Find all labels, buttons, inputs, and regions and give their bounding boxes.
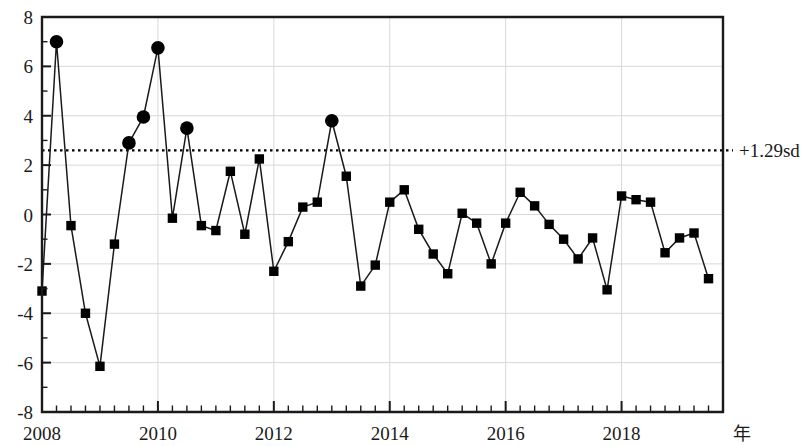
data-point-square bbox=[631, 195, 640, 204]
data-point-square bbox=[602, 285, 611, 294]
data-point-square bbox=[240, 230, 249, 239]
y-axis-tick-label: -4 bbox=[17, 303, 33, 324]
y-axis-tick-label: -8 bbox=[17, 402, 33, 423]
data-point-circle bbox=[325, 114, 339, 128]
data-point-circle bbox=[50, 35, 64, 49]
y-axis-tick-label: 2 bbox=[24, 155, 34, 176]
data-point-square bbox=[689, 228, 698, 237]
data-point-square bbox=[66, 221, 75, 230]
series-layer bbox=[37, 35, 713, 371]
y-axis-tick-label: 6 bbox=[24, 56, 34, 77]
data-point-square bbox=[588, 233, 597, 242]
data-point-square bbox=[95, 362, 104, 371]
y-axis-tick-label: -2 bbox=[17, 254, 33, 275]
x-axis-tick-label: 2016 bbox=[487, 423, 525, 444]
threshold-line-group: +1.29sd bbox=[42, 140, 800, 161]
x-axis-tick-label: 2010 bbox=[139, 423, 177, 444]
data-point-square bbox=[617, 191, 626, 200]
data-point-square bbox=[385, 197, 394, 206]
data-point-square bbox=[371, 260, 380, 269]
y-axis-tick-label: 8 bbox=[24, 7, 34, 28]
data-point-square bbox=[110, 239, 119, 248]
data-point-square bbox=[472, 218, 481, 227]
line-chart: +1.29sd 86420-2-4-6-82008201020122014201… bbox=[0, 0, 802, 446]
data-point-square bbox=[559, 234, 568, 243]
data-point-square bbox=[660, 248, 669, 257]
data-point-square bbox=[356, 281, 365, 290]
x-axis-tick-label: 2014 bbox=[371, 423, 410, 444]
data-point-square bbox=[313, 197, 322, 206]
x-axis-tick-label: 2012 bbox=[255, 423, 293, 444]
data-point-square bbox=[81, 309, 90, 318]
data-point-square bbox=[675, 233, 684, 242]
data-point-square bbox=[646, 197, 655, 206]
data-point-square bbox=[255, 154, 264, 163]
data-point-square bbox=[400, 185, 409, 194]
series-line bbox=[42, 42, 709, 367]
x-axis-tick-label: 2018 bbox=[603, 423, 641, 444]
data-point-square bbox=[429, 249, 438, 258]
data-point-square bbox=[342, 172, 351, 181]
data-point-square bbox=[226, 167, 235, 176]
x-axis-tick-label: 2008 bbox=[23, 423, 61, 444]
gridlines bbox=[42, 17, 723, 412]
x-axis-unit: 年 bbox=[733, 423, 751, 444]
data-point-square bbox=[486, 259, 495, 268]
chart-container: +1.29sd 86420-2-4-6-82008201020122014201… bbox=[0, 0, 802, 446]
data-point-square bbox=[501, 218, 510, 227]
data-point-square bbox=[414, 225, 423, 234]
data-point-square bbox=[211, 226, 220, 235]
data-point-circle bbox=[180, 121, 194, 135]
data-point-square bbox=[197, 221, 206, 230]
data-point-square bbox=[530, 201, 539, 210]
data-point-square bbox=[443, 269, 452, 278]
data-point-circle bbox=[137, 110, 151, 124]
data-point-circle bbox=[122, 136, 136, 150]
data-point-square bbox=[573, 254, 582, 263]
y-axis-tick-label: -6 bbox=[17, 353, 33, 374]
data-point-square bbox=[704, 274, 713, 283]
y-axis-tick-label: 4 bbox=[24, 106, 34, 127]
data-point-square bbox=[544, 220, 553, 229]
y-axis-tick-label: 0 bbox=[24, 205, 34, 226]
data-point-square bbox=[168, 214, 177, 223]
data-point-square bbox=[269, 267, 278, 276]
data-point-circle bbox=[151, 41, 165, 55]
data-point-square bbox=[457, 209, 466, 218]
data-point-square bbox=[298, 202, 307, 211]
data-point-square bbox=[515, 188, 524, 197]
threshold-label-text: +1.29sd bbox=[739, 140, 800, 161]
data-point-square bbox=[284, 237, 293, 246]
